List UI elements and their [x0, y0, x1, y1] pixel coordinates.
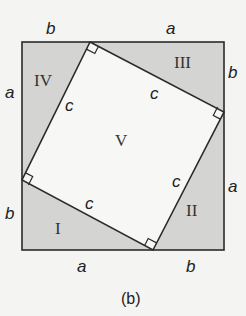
label-hyp-bottom-right-c: c [172, 172, 181, 191]
label-right-top-b: b [228, 63, 237, 82]
label-hyp-top-left-c: c [65, 96, 74, 115]
label-left-bottom-b: b [5, 204, 14, 223]
label-right-bottom-a: a [228, 177, 237, 196]
label-region-IV: IV [34, 71, 53, 90]
label-region-II: II [186, 201, 198, 220]
label-region-I: I [55, 219, 61, 238]
label-region-V: V [115, 131, 128, 150]
label-region-III: III [174, 53, 191, 72]
label-left-top-a: a [5, 83, 14, 102]
label-bottom-right-b: b [186, 257, 195, 276]
label-hyp-bottom-left-c: c [85, 194, 94, 213]
label-top-right-a: a [166, 19, 175, 38]
pythagorean-diagram: b a b a a b a b c c c c I II III IV V (b… [0, 0, 246, 316]
figure-caption: (b) [121, 290, 141, 307]
label-hyp-top-right-c: c [150, 84, 159, 103]
label-bottom-left-a: a [77, 257, 86, 276]
label-top-left-b: b [46, 19, 55, 38]
